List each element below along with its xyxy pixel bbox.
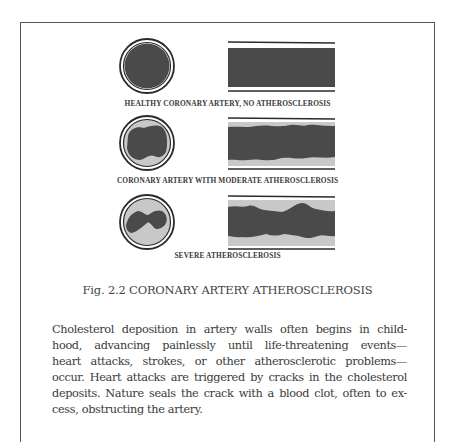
- body-line: Cholesterol deposition in artery walls o…: [52, 322, 407, 338]
- figure-caption: Fig. 2.2 CORONARY ARTERY ATHEROSCLEROSIS: [20, 283, 435, 297]
- severe-artery-cross-section: [118, 193, 176, 251]
- moderate-artery-cross-section: [118, 114, 176, 172]
- healthy-artery-longitudinal: [228, 40, 336, 94]
- body-line: cess, obstructing the artery.: [52, 402, 407, 418]
- body-line: occur. Heart attacks are triggered by cr…: [52, 370, 407, 386]
- healthy-artery-cross-section: [118, 37, 176, 95]
- panel-label-healthy: HEALTHY CORONARY ARTERY, NO ATHEROSCLERO…: [20, 99, 435, 108]
- moderate-artery-longitudinal: [228, 116, 336, 172]
- body-line: heart attacks, strokes, or other atheros…: [52, 354, 407, 370]
- body-line: hood, advancing painlessly until life-th…: [52, 338, 407, 354]
- body-paragraph: Cholesterol deposition in artery walls o…: [52, 322, 407, 418]
- severe-artery-longitudinal: [228, 194, 336, 252]
- panel-label-severe: SEVERE ATHEROSCLEROSIS: [20, 251, 435, 260]
- panel-label-moderate: CORONARY ARTERY WITH MODERATE ATHEROSCLE…: [20, 176, 435, 185]
- body-line: deposits. Nature seals the crack with a …: [52, 386, 407, 402]
